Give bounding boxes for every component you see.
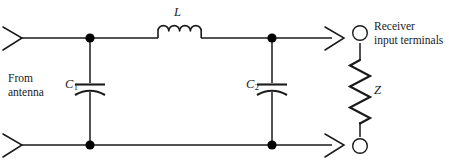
top-left-arrowhead-icon <box>3 27 22 50</box>
capacitor1-label: C1 <box>65 77 78 92</box>
circuit-diagram-figure: Fromantenna Receiverinput terminals L C1… <box>0 0 449 165</box>
from-antenna-line1: From <box>8 72 33 84</box>
inductor-label: L <box>174 5 181 20</box>
bottom-terminal-circle-icon <box>353 139 368 154</box>
from-antenna-line2: antenna <box>8 86 44 98</box>
top-terminal-circle-icon <box>353 26 368 41</box>
receiver-input-terminals-label: Receiverinput terminals <box>374 20 443 47</box>
bottom-rail-group <box>3 134 344 157</box>
impedance-label: Z <box>374 83 381 98</box>
node-top-left-dot <box>85 33 94 42</box>
impedance-zigzag-symbol <box>350 60 370 124</box>
bottom-left-arrowhead-icon <box>3 134 22 157</box>
capacitor2-label: C2 <box>246 77 259 92</box>
top-rail-group <box>3 27 344 50</box>
node-bottom-left-dot <box>85 140 94 149</box>
node-top-right-dot <box>267 33 276 42</box>
capacitor2-label-subscript: 2 <box>254 82 259 92</box>
node-bottom-right-dot <box>267 140 276 149</box>
from-antenna-label: Fromantenna <box>8 72 44 99</box>
capacitor1-label-subscript: 1 <box>73 82 78 92</box>
capacitor1-branch <box>75 38 105 145</box>
receiver-label-line1: Receiver <box>374 20 415 32</box>
receiver-label-line2: input terminals <box>374 34 443 46</box>
capacitor2-branch <box>257 38 287 145</box>
receiver-terminal-branch <box>350 26 370 154</box>
inductor-symbol <box>158 26 201 38</box>
